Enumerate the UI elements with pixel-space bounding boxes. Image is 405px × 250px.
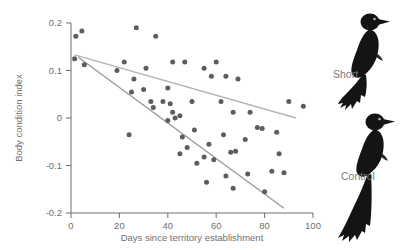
- y-tick-label: 0: [57, 112, 62, 123]
- legend-label-control: Control: [341, 170, 375, 182]
- data-point: [231, 186, 236, 191]
- data-point: [192, 127, 197, 132]
- data-point: [235, 77, 240, 82]
- x-tick-label: 0: [68, 220, 73, 231]
- data-point: [228, 150, 233, 155]
- data-point: [141, 87, 146, 92]
- data-point: [223, 173, 228, 178]
- data-point: [82, 62, 87, 67]
- data-points-short: [72, 25, 306, 137]
- bird-short-tail-icon: [336, 8, 398, 113]
- data-point: [255, 125, 260, 130]
- regression-line-control: [78, 57, 284, 208]
- x-axis-tick-labels: 020406080100: [68, 220, 321, 231]
- data-point: [134, 25, 139, 30]
- data-point: [286, 99, 291, 104]
- data-point: [231, 110, 236, 115]
- regression-lines-group: [75, 55, 296, 208]
- data-point: [177, 151, 182, 156]
- data-point: [243, 137, 248, 142]
- data-point: [202, 154, 207, 159]
- data-point: [173, 116, 178, 121]
- data-point: [165, 86, 170, 91]
- data-point: [211, 157, 216, 162]
- data-point: [168, 101, 173, 106]
- data-point: [245, 172, 250, 177]
- data-point: [281, 170, 286, 175]
- x-tick-label: 80: [259, 220, 270, 231]
- data-point: [165, 118, 170, 123]
- data-point: [219, 99, 224, 104]
- legend-label-short: Short: [333, 68, 358, 80]
- data-point: [170, 59, 175, 64]
- data-point: [131, 77, 136, 82]
- data-point: [221, 132, 226, 137]
- y-tick-label: 0.2: [49, 17, 62, 28]
- data-point: [214, 59, 219, 64]
- data-point: [202, 66, 207, 71]
- data-point: [79, 29, 84, 34]
- data-point: [301, 104, 306, 109]
- data-point: [144, 66, 149, 71]
- data-point: [122, 59, 127, 64]
- data-point: [151, 105, 156, 110]
- data-point: [73, 34, 78, 39]
- y-tick-label: -0.1: [46, 160, 62, 171]
- data-point: [170, 110, 175, 115]
- data-point: [127, 132, 132, 137]
- x-tick-label: 20: [114, 220, 125, 231]
- scatter-plot-figure: 0.20.10-0.1-0.2 020406080100 Days since …: [0, 0, 405, 250]
- data-point: [185, 145, 190, 150]
- data-point: [277, 151, 282, 156]
- data-point: [274, 130, 279, 135]
- data-point: [153, 34, 158, 39]
- data-point: [262, 189, 267, 194]
- data-point: [160, 99, 165, 104]
- data-point: [209, 74, 214, 79]
- x-tick-label: 40: [163, 220, 174, 231]
- y-tick-label: -0.2: [46, 207, 62, 218]
- data-point: [223, 74, 228, 79]
- data-point: [269, 169, 274, 174]
- data-point: [233, 149, 238, 154]
- data-point: [129, 89, 134, 94]
- axes-group: [71, 23, 313, 213]
- y-axis-tick-labels: 0.20.10-0.1-0.2: [46, 17, 62, 218]
- x-tick-label: 60: [211, 220, 222, 231]
- data-point: [190, 99, 195, 104]
- data-point: [260, 126, 265, 131]
- data-point: [177, 113, 182, 118]
- x-axis-ticks: [71, 213, 313, 218]
- data-point: [194, 161, 199, 166]
- data-point: [72, 56, 77, 61]
- data-point: [204, 180, 209, 185]
- data-points-control: [114, 68, 286, 194]
- data-point: [180, 135, 185, 140]
- x-tick-label: 100: [305, 220, 321, 231]
- y-tick-label: 0.1: [49, 65, 62, 76]
- data-point: [182, 59, 187, 64]
- y-axis-ticks: [66, 23, 71, 213]
- data-point: [148, 99, 153, 104]
- data-point: [206, 142, 211, 147]
- y-axis-title: Body condition index: [13, 74, 24, 162]
- x-axis-title: Days since territory establishment: [121, 232, 264, 243]
- data-point: [248, 110, 253, 115]
- data-point: [114, 68, 119, 73]
